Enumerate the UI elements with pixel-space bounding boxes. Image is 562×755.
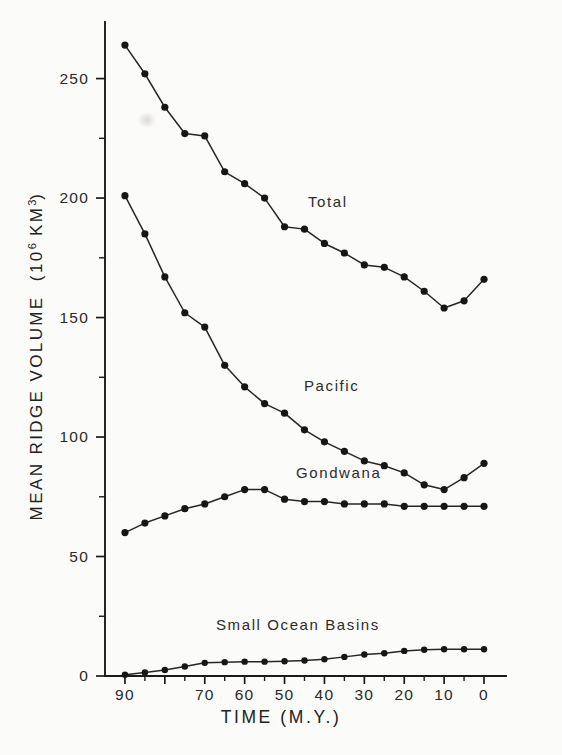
data-point [421,503,428,510]
data-point [381,500,388,507]
data-point [221,362,228,369]
x-tick-label: 90 [115,686,135,704]
data-point [261,486,268,493]
data-point [261,400,268,407]
x-tick-label: 30 [355,686,375,704]
y-tick-label: 250 [29,70,89,88]
data-point [441,486,448,493]
x-tick-label: 40 [315,686,335,704]
data-point [141,70,148,77]
data-point [481,646,487,652]
data-point [460,503,467,510]
data-point [142,669,148,675]
data-point [460,474,467,481]
data-point [421,647,427,653]
data-point [361,651,367,657]
data-point [201,500,208,507]
series-label-small-ocean-basins: Small Ocean Basins [216,616,380,633]
y-axis-title: MEAN RIDGE VOLUME (106 KM3) [25,192,47,521]
x-tick-label: 60 [235,686,255,704]
series-total [121,42,487,312]
data-point [341,500,348,507]
data-point [241,383,248,390]
y-tick-label: 100 [29,428,89,446]
data-point [341,249,348,256]
series-line [125,490,484,533]
data-point [141,519,148,526]
x-tick-label: 0 [479,686,489,704]
series-label-pacific: Pacific [304,377,359,394]
x-tick-label: 70 [195,686,215,704]
data-point [480,460,487,467]
series-label-gondwana: Gondwana [296,464,381,481]
data-point [301,226,308,233]
data-point [281,496,288,503]
data-point [341,654,347,660]
data-point [162,667,168,673]
data-point [421,481,428,488]
data-point [161,273,168,280]
data-point [441,304,448,311]
data-point [441,646,447,652]
data-point [281,223,288,230]
data-point [202,660,208,666]
series-line [125,45,484,308]
data-point [341,448,348,455]
data-point [121,529,128,536]
data-point [301,426,308,433]
data-point [221,659,227,665]
data-point [480,503,487,510]
x-axis-title: TIME (M.Y.) [221,707,342,728]
data-point [401,503,408,510]
series-small-ocean-basins [122,646,487,678]
data-point [480,276,487,283]
data-point [141,230,148,237]
data-point [221,493,228,500]
chart-plot-area [0,0,562,755]
data-point [281,658,287,664]
data-point [301,498,308,505]
data-point [401,469,408,476]
figure-panel: TIME (M.Y.) MEAN RIDGE VOLUME (106 KM3) … [0,0,562,755]
data-point [401,648,407,654]
x-tick-label: 50 [275,686,295,704]
y-axis-title-main: MEAN RIDGE VOLUME [27,295,46,520]
data-point [281,410,288,417]
data-point [121,192,128,199]
data-point [161,512,168,519]
data-point [460,297,467,304]
data-point [181,130,188,137]
data-point [241,658,247,664]
data-point [182,663,188,669]
data-point [381,462,388,469]
data-point [241,180,248,187]
data-point [201,324,208,331]
data-point [221,168,228,175]
series-label-total: Total [308,193,348,210]
data-point [321,240,328,247]
data-point [122,672,128,678]
data-point [261,658,267,664]
data-point [201,132,208,139]
data-point [321,438,328,445]
data-point [181,505,188,512]
data-point [381,264,388,271]
data-point [361,500,368,507]
data-point [381,650,387,656]
data-point [241,486,248,493]
data-point [441,503,448,510]
series-line [125,196,484,490]
data-point [261,194,268,201]
data-point [301,657,307,663]
data-point [181,309,188,316]
data-point [361,261,368,268]
data-point [461,646,467,652]
x-tick-label: 10 [434,686,454,704]
data-point [421,288,428,295]
y-tick-label: 150 [29,309,89,327]
data-point [121,42,128,49]
series-gondwana [121,486,487,536]
data-point [321,656,327,662]
data-point [161,104,168,111]
data-point [401,273,408,280]
